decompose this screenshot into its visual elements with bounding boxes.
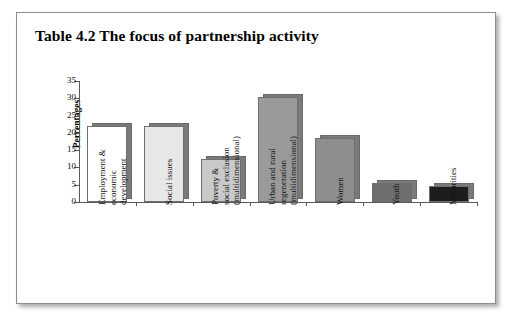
y-tick-label: 20	[67, 127, 76, 137]
x-axis-label-line: Women	[335, 177, 346, 205]
x-axis-label: Social issues	[164, 159, 175, 205]
x-axis-label-line: development	[118, 149, 129, 205]
x-axis-label-line: (multidimensional)	[231, 136, 242, 205]
y-tick-label: 0	[72, 196, 77, 206]
y-tick-label: 25	[67, 110, 76, 120]
x-axis-label: Poverty &social exclusion(multidimension…	[210, 136, 242, 205]
x-axis-label-line: Minorities	[448, 168, 459, 206]
x-axis-label-line: social exclusion	[221, 136, 232, 205]
figure-panel: Table 4.2 The focus of partnership activ…	[16, 12, 496, 304]
x-axis-label: Youth	[391, 183, 402, 205]
y-tick-label: 10	[67, 161, 76, 171]
y-tick-label: 30	[67, 92, 76, 102]
y-tick-label: 5	[72, 179, 77, 189]
x-axis-label: Women	[335, 177, 346, 205]
x-axis-label-line: Poverty &	[210, 136, 221, 205]
x-axis-label-line: regeneration	[278, 136, 289, 205]
x-axis-label-line: Urban and rural	[267, 136, 278, 205]
x-axis-label-line: economic	[107, 149, 118, 205]
x-axis-category-labels: Employment &economicdevelopmentSocial is…	[79, 205, 499, 315]
x-axis-label: Minorities	[448, 168, 459, 206]
x-axis-label-line: Social issues	[164, 159, 175, 205]
y-tick-label: 15	[67, 144, 76, 154]
x-axis-label-line: Youth	[391, 183, 402, 205]
x-axis-label: Employment &economicdevelopment	[97, 149, 129, 205]
figure-title: Table 4.2 The focus of partnership activ…	[35, 27, 319, 45]
x-axis-label: Urban and ruralregeneration(multidimensi…	[267, 136, 299, 205]
x-axis-label-line: Employment &	[97, 149, 108, 205]
y-tick-label: 35	[67, 75, 76, 85]
x-axis-label-line: (multidimensional)	[288, 136, 299, 205]
